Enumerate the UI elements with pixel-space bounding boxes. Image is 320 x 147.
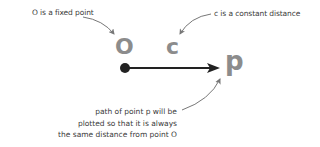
origin-label: O <box>115 36 134 58</box>
origin-point-dot <box>120 63 130 73</box>
constant-distance-annotation: c is a constant distance <box>214 9 300 18</box>
fixed-point-annotation: O is a fixed point <box>32 8 94 17</box>
constant-distance-pointer-arrow <box>180 14 211 34</box>
path-note-line-1: path of point p will be <box>58 106 177 118</box>
path-note-line-3: the same distance from point O <box>58 129 177 141</box>
path-note-annotation: path of point p will be plotted so that … <box>58 106 177 141</box>
path-note-line-2: plotted so that it is always <box>58 118 177 130</box>
path-note-pointer-arrow <box>182 79 220 110</box>
point-label: p <box>225 48 244 74</box>
fixed-point-pointer-arrow <box>83 17 114 34</box>
distance-label: c <box>166 36 179 58</box>
